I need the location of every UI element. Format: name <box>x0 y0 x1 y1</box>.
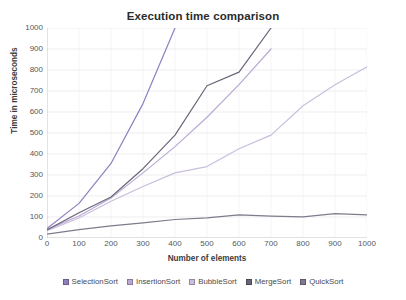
series-line-mergesort <box>47 28 271 230</box>
x-tick-label: 400 <box>157 240 193 248</box>
plot-area <box>47 28 367 238</box>
x-tick-label: 500 <box>189 240 225 248</box>
y-tick-label: 100 <box>17 213 43 221</box>
x-tick-label: 700 <box>253 240 289 248</box>
legend-item-bubblesort[interactable]: BubbleSort <box>189 277 237 286</box>
x-tick-label: 600 <box>221 240 257 248</box>
legend-swatch-icon <box>63 279 69 285</box>
y-tick-label: 800 <box>17 66 43 74</box>
chart-container: Execution time comparison Time in micros… <box>0 0 406 300</box>
series-line-insertionsort <box>47 49 271 230</box>
y-tick-label: 900 <box>17 45 43 53</box>
y-tick-label: 700 <box>17 87 43 95</box>
legend-swatch-icon <box>300 279 306 285</box>
y-tick-label: 600 <box>17 108 43 116</box>
legend-item-mergesort[interactable]: MergeSort <box>246 277 291 286</box>
legend-label: InsertionSort <box>136 277 180 286</box>
legend-swatch-icon <box>246 279 252 285</box>
y-tick-label: 400 <box>17 150 43 158</box>
chart-legend: SelectionSortInsertionSortBubbleSortMerg… <box>0 277 406 286</box>
x-tick-label: 900 <box>317 240 353 248</box>
y-tick-label: 300 <box>17 171 43 179</box>
x-axis-tick-labels: 01002003004005006007008009001000 <box>47 240 367 254</box>
legend-item-insertionsort[interactable]: InsertionSort <box>127 277 180 286</box>
legend-label: QuickSort <box>309 277 343 286</box>
legend-item-quicksort[interactable]: QuickSort <box>300 277 343 286</box>
legend-label: MergeSort <box>255 277 291 286</box>
legend-item-selectionsort[interactable]: SelectionSort <box>63 277 118 286</box>
y-tick-label: 1000 <box>17 24 43 32</box>
legend-label: SelectionSort <box>72 277 118 286</box>
chart-plot-svg <box>47 28 367 238</box>
x-tick-label: 200 <box>93 240 129 248</box>
x-tick-label: 100 <box>61 240 97 248</box>
x-tick-label: 0 <box>29 240 65 248</box>
x-axis-title: Number of elements <box>47 254 367 263</box>
chart-title: Execution time comparison <box>0 10 406 22</box>
x-tick-label: 300 <box>125 240 161 248</box>
y-tick-label: 200 <box>17 192 43 200</box>
legend-label: BubbleSort <box>198 277 237 286</box>
y-tick-label: 500 <box>17 129 43 137</box>
legend-swatch-icon <box>127 279 133 285</box>
y-axis-tick-labels: 01002003004005006007008009001000 <box>13 28 43 238</box>
x-tick-label: 1000 <box>349 240 385 248</box>
legend-swatch-icon <box>189 279 195 285</box>
x-tick-label: 800 <box>285 240 321 248</box>
